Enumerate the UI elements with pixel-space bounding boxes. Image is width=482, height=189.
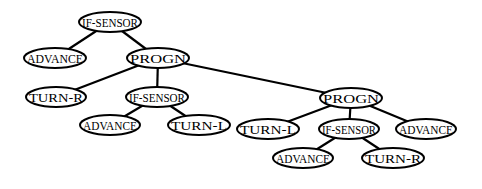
tree-node-advance: ADVANCE bbox=[24, 48, 86, 68]
node-label: TURN-L bbox=[171, 119, 227, 133]
tree-node-turn-r: TURN-R bbox=[26, 87, 86, 107]
tree-node-turn-l: TURN-L bbox=[168, 115, 230, 135]
tree-node-if-sensor: IF-SENSOR bbox=[319, 119, 379, 139]
program-tree-diagram: IF-SENSORADVANCEPROGNTURN-RIF-SENSORPROG… bbox=[0, 0, 482, 189]
node-label: PROGN bbox=[130, 52, 186, 66]
tree-node-progn: PROGN bbox=[127, 48, 189, 68]
node-label: ADVANCE bbox=[399, 123, 453, 137]
node-label: ADVANCE bbox=[83, 119, 137, 133]
tree-node-progn: PROGN bbox=[320, 88, 382, 108]
tree-node-turn-r: TURN-R bbox=[362, 148, 424, 168]
tree-node-turn-l: TURN-L bbox=[237, 119, 299, 139]
tree-node-if-sensor: IF-SENSOR bbox=[126, 87, 188, 107]
node-label: IF-SENSOR bbox=[129, 91, 185, 105]
node-label: PROGN bbox=[323, 92, 379, 106]
tree-node-advance: ADVANCE bbox=[273, 148, 333, 168]
node-label: IF-SENSOR bbox=[322, 123, 376, 137]
tree-node-advance: ADVANCE bbox=[80, 115, 140, 135]
node-label: ADVANCE bbox=[27, 52, 83, 66]
node-label: TURN-L bbox=[240, 123, 296, 137]
tree-node-if-sensor: IF-SENSOR bbox=[79, 12, 141, 32]
node-label: TURN-R bbox=[29, 91, 83, 105]
node-label: TURN-R bbox=[365, 152, 421, 166]
node-label: ADVANCE bbox=[276, 152, 330, 166]
node-label: IF-SENSOR bbox=[82, 16, 138, 30]
tree-node-advance: ADVANCE bbox=[396, 119, 456, 139]
